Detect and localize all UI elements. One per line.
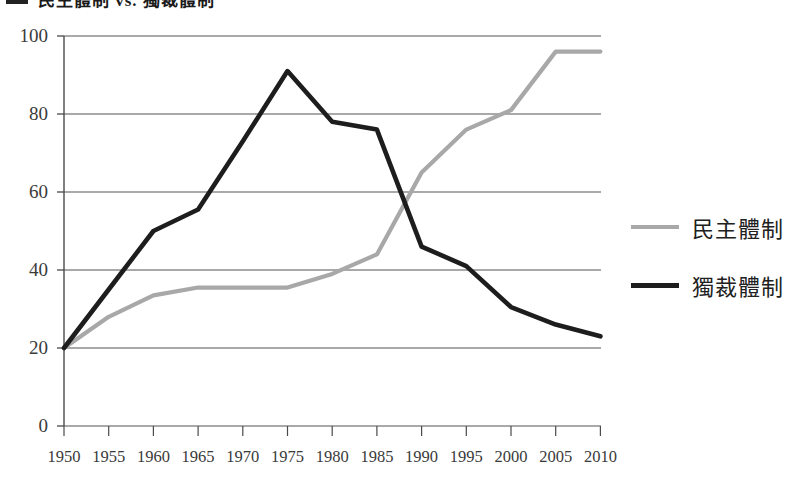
x-tick-label: 1995 xyxy=(443,447,489,467)
legend-line-swatch-icon xyxy=(631,225,679,229)
y-tick-label: 100 xyxy=(4,25,48,47)
figure-number-marker xyxy=(6,0,28,4)
x-tick-label: 1975 xyxy=(265,447,311,467)
x-tick-label: 2010 xyxy=(577,447,623,467)
x-tick-label: 1990 xyxy=(399,447,445,467)
figure-title-cropped: 民主體制 vs. 獨裁體制 xyxy=(0,0,795,9)
series-line-democracy xyxy=(64,52,600,348)
y-tick-label: 20 xyxy=(4,337,48,359)
y-tick-marks xyxy=(57,36,64,426)
x-tick-label: 1970 xyxy=(220,447,266,467)
legend-item-autocracy: 獨裁體制 xyxy=(631,256,795,314)
x-tick-label: 1985 xyxy=(354,447,400,467)
x-tick-label: 1960 xyxy=(130,447,176,467)
chart-legend: 民主體制 獨裁體制 xyxy=(631,198,795,314)
figure-title-text: 民主體制 vs. 獨裁體制 xyxy=(6,0,215,9)
x-tick-label: 1965 xyxy=(175,447,221,467)
x-tick-label: 2000 xyxy=(488,447,534,467)
x-tick-label: 1980 xyxy=(309,447,355,467)
x-tick-label: 2005 xyxy=(533,447,579,467)
x-tick-label: 1955 xyxy=(86,447,132,467)
x-tick-marks xyxy=(64,426,600,436)
line-chart: 100 80 60 40 20 0 1950 1955 1960 1965 19… xyxy=(0,9,620,482)
legend-label: 獨裁體制 xyxy=(692,269,784,301)
y-tick-label: 0 xyxy=(4,415,48,437)
x-tick-label: 1950 xyxy=(41,447,87,467)
legend-line-swatch-icon xyxy=(631,283,679,288)
y-tick-label: 60 xyxy=(4,181,48,203)
legend-item-democracy: 民主體制 xyxy=(631,198,795,256)
legend-label: 民主體制 xyxy=(692,211,784,243)
y-tick-label: 80 xyxy=(4,103,48,125)
chart-plot-area xyxy=(0,9,620,482)
y-tick-label: 40 xyxy=(4,259,48,281)
series-line-autocracy xyxy=(64,71,600,348)
